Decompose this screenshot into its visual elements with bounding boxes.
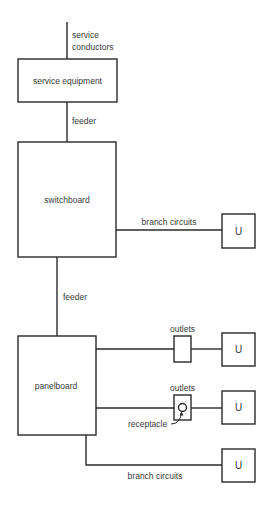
outlets-label-2: outlets: [170, 383, 195, 393]
electrical-distribution-diagram: service conductors service equipment fee…: [0, 0, 279, 508]
service-conductors-label-1: service: [72, 30, 99, 40]
branch-circuits-label-2: branch circuits: [128, 471, 183, 481]
utilization-label-1: U: [235, 226, 242, 237]
panelboard-label: panelboard: [35, 381, 78, 391]
feeder-label-2: feeder: [63, 292, 87, 302]
service-conductors-label-2: conductors: [72, 42, 114, 52]
branch-circuit-line-2: [86, 435, 222, 465]
feeder-label-1: feeder: [72, 116, 96, 126]
switchboard-label: switchboard: [44, 195, 90, 205]
branch-circuits-label-1: branch circuits: [142, 217, 197, 227]
utilization-label-4: U: [235, 460, 242, 471]
receptacle-label: receptacle: [128, 419, 167, 429]
outlets-label-1: outlets: [170, 324, 195, 334]
receptacle-icon: [179, 404, 187, 412]
utilization-label-2: U: [235, 344, 242, 355]
service-equipment-label: service equipment: [33, 76, 103, 86]
utilization-label-3: U: [235, 402, 242, 413]
outlet-box-1: [174, 336, 191, 362]
